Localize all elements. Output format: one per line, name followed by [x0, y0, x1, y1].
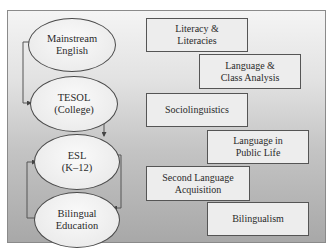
- node-label: ESL (K–12): [62, 150, 92, 174]
- box-language-public-life: Language in Public Life: [207, 130, 309, 164]
- node-mainstream-english: Mainstream English: [28, 18, 116, 72]
- box-label: Second Language Acquisition: [162, 172, 233, 196]
- node-bilingual-education: Bilingual Education: [34, 192, 120, 248]
- box-sla: Second Language Acquisition: [146, 166, 250, 201]
- node-tesol-college: TESOL (College): [30, 76, 118, 132]
- box-label: Literacy & Literacies: [175, 23, 219, 47]
- box-bilingualism: Bilingualism: [207, 202, 309, 236]
- box-sociolinguistics: Sociolinguistics: [146, 93, 248, 127]
- node-label: Bilingual Education: [56, 208, 99, 232]
- node-label: Mainstream English: [47, 33, 97, 57]
- box-label: Language in Public Life: [233, 135, 283, 159]
- box-literacy: Literacy & Literacies: [146, 18, 248, 52]
- box-label: Language & Class Analysis: [221, 60, 280, 84]
- node-esl-k12: ESL (K–12): [34, 134, 120, 190]
- box-label: Sociolinguistics: [165, 104, 229, 116]
- box-label: Bilingualism: [232, 213, 284, 225]
- box-language-class: Language & Class Analysis: [199, 54, 301, 89]
- node-label: TESOL (College): [54, 92, 94, 116]
